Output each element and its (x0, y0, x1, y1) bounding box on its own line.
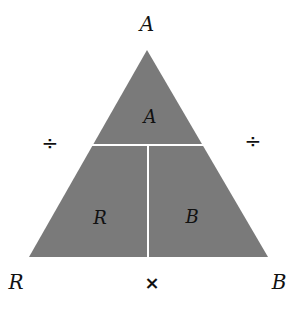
formula-triangle-diagram: A R B A R B ÷ ÷ × (0, 0, 295, 320)
outer-label-bottom-left: R (8, 272, 23, 292)
outer-label-bottom-right: B (272, 272, 287, 292)
divide-icon-left: ÷ (42, 133, 59, 153)
divide-icon-right: ÷ (245, 131, 262, 151)
inner-label-top: A (144, 108, 157, 126)
multiply-icon-bottom: × (144, 274, 159, 292)
inner-label-bottom-right: B (185, 208, 198, 226)
outer-label-top: A (140, 14, 154, 34)
inner-label-bottom-left: R (93, 209, 107, 227)
